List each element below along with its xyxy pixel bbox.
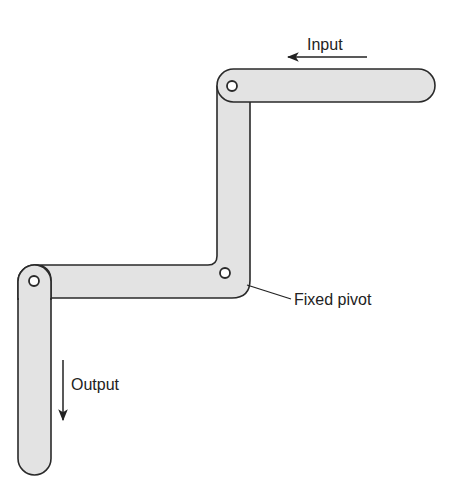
linkage-diagram: Input Fixed pivot Output xyxy=(0,0,463,487)
fixed-pivot-leader xyxy=(247,285,291,299)
left-pin-hole xyxy=(29,276,39,286)
output-label: Output xyxy=(71,376,120,393)
bell-crank xyxy=(34,86,250,298)
input-label: Input xyxy=(307,36,343,53)
input-link xyxy=(217,69,435,102)
fixed-pivot-hole xyxy=(220,268,230,278)
top-pin-hole xyxy=(227,81,237,91)
fixed-pivot-label: Fixed pivot xyxy=(294,291,372,308)
